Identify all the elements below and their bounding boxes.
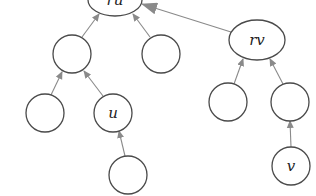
node-v: v	[272, 147, 310, 185]
node-rv: rv	[229, 20, 285, 60]
node-a	[53, 35, 91, 73]
node-label: v	[287, 157, 296, 175]
node-label: rv	[249, 31, 265, 49]
node-b	[142, 35, 180, 73]
edge-a-to-ru	[82, 14, 99, 37]
node-label: u	[108, 104, 118, 122]
edge-e-to-rv	[234, 59, 243, 84]
node-d	[109, 156, 147, 194]
union-find-diagram: rurvuv	[0, 0, 316, 196]
node-circle	[53, 35, 91, 73]
edge-f-to-rv	[270, 59, 283, 84]
edge-rv-to-ru	[142, 4, 231, 32]
node-circle	[142, 35, 180, 73]
node-c	[26, 94, 64, 132]
edge-d-to-u	[119, 131, 125, 156]
node-u: u	[94, 94, 132, 132]
node-circle	[109, 156, 147, 194]
edge-v-to-f	[290, 121, 291, 147]
node-circle	[209, 83, 247, 121]
edge-c-to-a	[51, 72, 62, 95]
nodes-group: rurvuv	[26, 0, 310, 194]
edge-b-to-ru	[133, 14, 150, 37]
node-label: ru	[107, 0, 124, 9]
node-circle	[271, 83, 309, 121]
node-circle	[26, 94, 64, 132]
node-e	[209, 83, 247, 121]
node-f	[271, 83, 309, 121]
edge-u-to-a	[84, 71, 103, 96]
node-ru: ru	[88, 0, 142, 16]
